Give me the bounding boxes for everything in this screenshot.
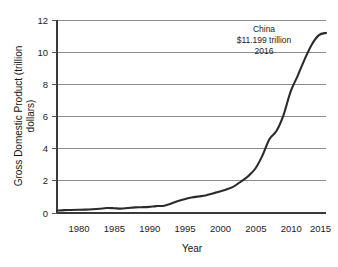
annotation-line-country: China (253, 24, 275, 34)
annotation-line-year: 2016 (255, 46, 274, 56)
y-axis-title-line2: dollars) (25, 100, 36, 133)
y-tick-label-12: 12 (37, 15, 48, 26)
annotation-line-value: $11.199 trillion (237, 35, 292, 45)
x-axis-title: Year (182, 243, 203, 254)
y-tick-label-6: 6 (43, 111, 48, 122)
y-tick-label-0: 0 (43, 208, 48, 219)
y-tick-label-4: 4 (43, 143, 48, 154)
y-axis-title-line1: Gross Domestic Product (trillion (13, 46, 24, 187)
y-tick-label-2: 2 (43, 175, 48, 186)
gdp-line-chart: 12 10 8 6 4 2 0 1980 1985 1990 1995 2000… (0, 0, 338, 267)
y-tick-label-10: 10 (37, 47, 48, 58)
x-tick-label-2005: 2005 (245, 223, 266, 234)
y-tick-label-8: 8 (43, 79, 48, 90)
x-tick-label-1995: 1995 (175, 223, 196, 234)
x-tick-label-1985: 1985 (104, 223, 125, 234)
x-tick-label-1990: 1990 (139, 223, 160, 234)
x-tick-label-1980: 1980 (68, 223, 89, 234)
x-tick-label-2015: 2015 (310, 223, 331, 234)
chart-container: 12 10 8 6 4 2 0 1980 1985 1990 1995 2000… (0, 0, 338, 267)
x-tick-label-2010: 2010 (281, 223, 302, 234)
x-tick-label-2000: 2000 (210, 223, 231, 234)
